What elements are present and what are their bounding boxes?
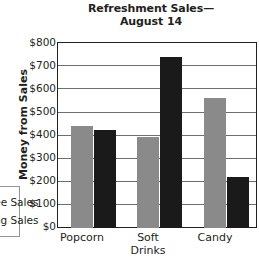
gridline-700 (58, 65, 256, 66)
y-tick-label-800: $800 (10, 37, 56, 47)
y-tick-label-600: $600 (10, 83, 56, 93)
y-tick-label-400: $400 (10, 129, 56, 139)
x-tick-candy-line-1: Candy (172, 231, 258, 244)
gridline-100 (58, 204, 256, 205)
legend-item-series-a: Matinee Sales (0, 193, 19, 211)
x-tick-soft-drinks-line-2: Drinks (105, 244, 191, 257)
gridline-500 (58, 112, 256, 113)
legend-label-series-a: Matinee Sales (0, 196, 38, 208)
chart-legend: Matinee Sales Evening Sales (0, 186, 20, 237)
chart-title-line-2: August 14 (46, 15, 256, 28)
y-tick-label-500: $500 (10, 106, 56, 116)
gridline-600 (58, 88, 256, 89)
bar-chart: Refreshment Sales— August 14 Money from … (0, 0, 259, 262)
gridline-200 (58, 181, 256, 182)
legend-label-series-b: Evening Sales (0, 214, 39, 226)
y-tick-label-700: $700 (10, 60, 56, 70)
gridline-300 (58, 158, 256, 159)
chart-title: Refreshment Sales— August 14 (46, 2, 256, 28)
y-tick-label-200: $200 (10, 175, 56, 185)
x-tick-label-candy: Candy (172, 231, 258, 244)
plot-area (57, 42, 257, 228)
gridline-400 (58, 135, 256, 136)
chart-title-line-1: Refreshment Sales— (46, 2, 256, 15)
y-tick-label-300: $300 (10, 152, 56, 162)
legend-item-series-b: Evening Sales (0, 211, 19, 229)
